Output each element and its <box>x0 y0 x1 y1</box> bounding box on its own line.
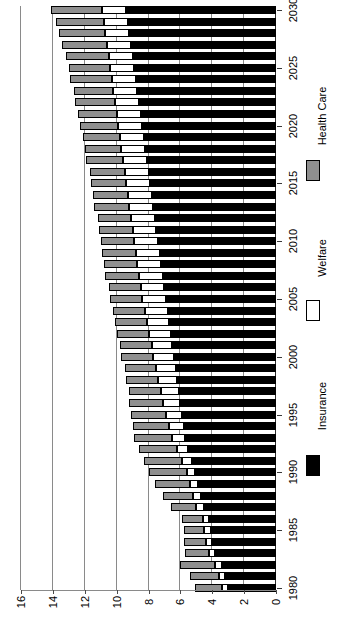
bar-segment-health <box>80 122 118 130</box>
bar-segment-welfare <box>104 18 128 26</box>
bar-1987 <box>171 503 276 511</box>
bar-segment-insurance <box>126 6 276 14</box>
bar-segment-welfare <box>133 226 157 234</box>
bar-segment-welfare <box>107 41 131 49</box>
bar-segment-welfare <box>112 75 136 83</box>
category-axis-label-2010: 2010 <box>287 220 299 262</box>
bar-segment-welfare <box>120 133 144 141</box>
bar-segment-welfare <box>137 260 161 268</box>
bar-2009 <box>102 249 276 257</box>
category-tick-2030 <box>277 10 282 11</box>
bar-segment-welfare <box>123 156 147 164</box>
bar-segment-welfare <box>152 341 173 349</box>
bar-2018 <box>85 145 276 153</box>
bar-segment-welfare <box>147 318 169 326</box>
bar-2021 <box>78 110 276 118</box>
bar-2027 <box>62 41 276 49</box>
bar-2000 <box>121 353 276 361</box>
legend-label-insurance: Insurance <box>316 366 328 446</box>
bar-2026 <box>66 52 276 60</box>
bar-segment-insurance <box>136 75 276 83</box>
category-axis-label-1985: 1985 <box>287 509 299 551</box>
bar-segment-health <box>121 353 153 361</box>
bar-2005 <box>110 295 276 303</box>
bar-1998 <box>126 376 276 384</box>
bar-2003 <box>115 318 276 326</box>
bar-segment-insurance <box>160 249 276 257</box>
bar-segment-health <box>66 52 109 60</box>
bar-segment-insurance <box>137 87 276 95</box>
bar-1986 <box>182 515 276 523</box>
bar-segment-insurance <box>174 353 276 361</box>
bar-segment-health <box>62 41 107 49</box>
bar-segment-health <box>155 480 190 488</box>
bar-segment-welfare <box>125 168 149 176</box>
bar-segment-health <box>134 434 172 442</box>
bar-segment-insurance <box>225 572 276 580</box>
bar-2011 <box>99 226 276 234</box>
bar-2006 <box>109 283 276 291</box>
value-axis-label-14: 14 <box>47 589 59 615</box>
bar-segment-insurance <box>168 307 276 315</box>
bar-segment-welfare <box>156 364 175 372</box>
bar-segment-health <box>99 226 132 234</box>
bar-2013 <box>94 203 276 211</box>
bar-segment-welfare <box>187 468 195 476</box>
bar-1999 <box>125 364 276 372</box>
bar-1985 <box>184 526 276 534</box>
bar-segment-insurance <box>145 145 276 153</box>
bar-segment-health <box>101 237 134 245</box>
bar-segment-insurance <box>201 492 276 500</box>
legend-swatch-health-care <box>306 160 320 181</box>
bar-segment-insurance <box>158 237 276 245</box>
bar-1992 <box>139 445 276 453</box>
bar-segment-insurance <box>215 549 276 557</box>
category-axis-label-2015: 2015 <box>287 162 299 204</box>
category-tick-1990 <box>277 472 282 473</box>
bar-2010 <box>101 237 276 245</box>
bar-segment-insurance <box>129 29 276 37</box>
category-tick-2005 <box>277 299 282 300</box>
bar-segment-insurance <box>182 411 276 419</box>
bar-segment-insurance <box>211 526 276 534</box>
category-tick-1980 <box>277 588 282 589</box>
bar-segment-health <box>83 133 120 141</box>
bar-segment-health <box>102 249 135 257</box>
bar-segment-insurance <box>171 330 276 338</box>
bar-segment-insurance <box>164 283 276 291</box>
bar-segment-health <box>104 260 137 268</box>
bar-segment-health <box>109 283 141 291</box>
bar-segment-health <box>139 445 177 453</box>
bar-1989 <box>155 480 276 488</box>
bar-segment-insurance <box>150 179 276 187</box>
bar-segment-insurance <box>179 387 276 395</box>
bar-segment-insurance <box>172 341 276 349</box>
bar-segment-health <box>98 214 131 222</box>
category-axis-label-1995: 1995 <box>287 394 299 436</box>
bar-segment-health <box>182 515 203 523</box>
bar-segment-health <box>113 307 145 315</box>
bar-segment-health <box>85 145 122 153</box>
bar-1981 <box>190 572 276 580</box>
bar-segment-insurance <box>192 457 276 465</box>
value-axis-label-12: 12 <box>79 589 91 615</box>
bar-segment-welfare <box>177 445 188 453</box>
bar-segment-health <box>70 75 111 83</box>
bar-segment-welfare <box>113 87 137 95</box>
bar-1991 <box>144 457 276 465</box>
legend-label-welfare: Welfare <box>316 218 328 298</box>
bar-segment-welfare <box>153 353 174 361</box>
category-axis-label-2000: 2000 <box>287 336 299 378</box>
bar-segment-insurance <box>204 503 276 511</box>
bar-segment-health <box>184 538 206 546</box>
bar-segment-welfare <box>193 492 201 500</box>
bar-segment-insurance <box>176 364 276 372</box>
bar-segment-welfare <box>110 64 134 72</box>
bar-segment-health <box>126 376 158 384</box>
bar-2002 <box>117 330 276 338</box>
bar-segment-insurance <box>198 480 276 488</box>
bar-segment-health <box>110 295 142 303</box>
bar-2004 <box>113 307 276 315</box>
value-axis-label-10: 10 <box>111 589 123 615</box>
stacked-bar-chart: 0246810121416 19801985199019952000200520… <box>0 0 339 636</box>
